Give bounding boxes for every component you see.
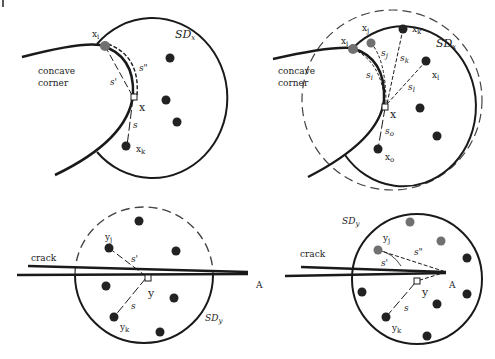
support-domain-circle xyxy=(75,275,213,343)
evaluation-point-y xyxy=(414,278,420,284)
node xyxy=(172,247,181,256)
node xyxy=(166,54,175,63)
domain-dashed-arc xyxy=(75,207,213,275)
dist-s-o-label: so xyxy=(385,126,394,138)
node-x-i-label: xi xyxy=(341,36,349,48)
dist-s-label: s xyxy=(404,303,409,313)
node xyxy=(463,254,472,263)
diagram-canvas: concave corner SDx xi xk x s" s' s conc xyxy=(0,0,495,359)
dist-s-label: s xyxy=(131,301,136,311)
concave-label-line1: concave xyxy=(38,66,75,76)
node xyxy=(437,237,446,246)
node-x-j-label: xj xyxy=(362,23,369,35)
node-y-j xyxy=(374,246,383,255)
concave-label-line2: corner xyxy=(38,78,69,88)
crack-label: crack xyxy=(31,253,57,263)
node xyxy=(433,132,442,141)
crack-upper-line xyxy=(28,266,248,272)
node-x-i xyxy=(348,44,358,54)
node-y-j xyxy=(105,244,114,253)
node-y-j-label: yj xyxy=(104,232,112,244)
node xyxy=(463,290,472,299)
path-s-l xyxy=(387,61,426,104)
evaluation-point-x xyxy=(131,94,137,100)
node-x-l-label: xl xyxy=(432,70,440,82)
node-x-i xyxy=(100,41,110,51)
node-x-j xyxy=(367,39,376,48)
dist-s-l-label: sl xyxy=(408,82,415,94)
crack-label: crack xyxy=(300,249,326,259)
node xyxy=(358,288,367,297)
node-y-k-label: yk xyxy=(119,322,130,334)
crack-lower-line xyxy=(17,274,248,275)
node-x-o xyxy=(374,145,383,154)
path-s-k xyxy=(387,29,403,104)
dist-s-i-label: si xyxy=(366,70,373,82)
node xyxy=(423,332,432,341)
domain-label: SDy xyxy=(342,216,360,228)
point-y-label: y xyxy=(421,286,429,299)
crack-upper-line xyxy=(301,267,446,272)
node xyxy=(170,294,179,303)
crack-tip-label: A xyxy=(448,280,456,290)
domain-label: SDx xyxy=(436,37,456,51)
node xyxy=(416,104,425,113)
point-x-label: x xyxy=(139,101,146,114)
concave-boundary xyxy=(22,45,133,176)
node-x-k xyxy=(399,25,408,34)
evaluation-point-y xyxy=(145,275,151,281)
node-x-l xyxy=(422,57,431,66)
node xyxy=(156,328,165,337)
path-s xyxy=(386,283,415,317)
panel-bottom-right: SDy crack yj yk y A s" s' s xyxy=(285,214,482,344)
dist-s-prime-label: s' xyxy=(110,77,117,87)
concave-label-line2: corner xyxy=(278,78,309,88)
dist-s-k-label: sk xyxy=(400,53,409,65)
panel-bottom-left: crack yj yk y s' s SDy A xyxy=(17,207,263,343)
node xyxy=(406,218,415,227)
node xyxy=(162,96,171,105)
node-y-j-label: yj xyxy=(382,233,390,245)
node-x-k xyxy=(122,142,131,151)
node-x-o-label: xo xyxy=(385,152,394,164)
node-y-k xyxy=(382,313,391,322)
evaluation-point-x xyxy=(382,104,388,110)
concave-label-line1: concave xyxy=(278,66,315,76)
path-s xyxy=(114,278,146,317)
node-y-k xyxy=(110,313,119,322)
node-x-i-label: xi xyxy=(92,29,100,41)
node-y-k-label: yk xyxy=(391,323,402,335)
node-x-k-label: xk xyxy=(412,24,422,36)
node xyxy=(173,118,182,127)
panel-top-left: concave corner SDx xi xk x s" s' s xyxy=(22,18,227,178)
dist-s-prime-label: s' xyxy=(381,258,388,268)
dist-s-j-label: sj xyxy=(381,48,389,60)
dist-s-dprime-label: s" xyxy=(414,247,423,257)
dist-s-label: s xyxy=(133,120,138,130)
dist-s-prime-label: s' xyxy=(131,254,138,264)
point-y-label: y xyxy=(147,287,155,300)
node xyxy=(135,217,144,226)
crack-tip-label: A xyxy=(255,280,263,290)
panel-top-right: concave corner SDx xi xj xk xl xo x si s… xyxy=(273,10,482,190)
node-x-k-label: xk xyxy=(136,144,146,156)
domain-label: SDy xyxy=(205,313,223,325)
node xyxy=(433,300,442,309)
dist-s-dprime-label: s" xyxy=(139,63,148,73)
crack-lower-line xyxy=(285,273,446,276)
point-x-label: x xyxy=(390,108,397,121)
node xyxy=(102,282,111,291)
diagram-svg: concave corner SDx xi xk x s" s' s conc xyxy=(0,0,495,359)
